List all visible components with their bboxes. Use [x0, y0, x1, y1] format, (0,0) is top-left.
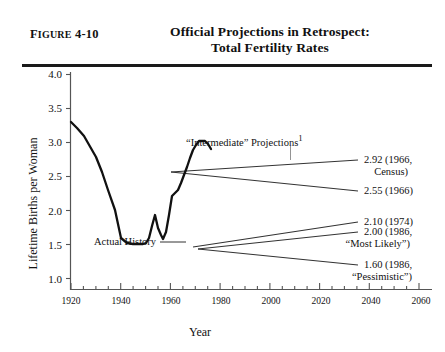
endpoint-label-line2: Census)	[300, 166, 408, 178]
endpoint-label-most-likely-1986: 2.00 (1986, “Most Likely”)	[300, 226, 410, 249]
endpoint-label-line1: 2.92 (1966,	[300, 154, 408, 166]
figure-page: FIGURE 4-10 Official Projections in Retr…	[0, 0, 445, 352]
endpoint-label-line1: 2.00 (1986,	[300, 226, 410, 238]
endpoint-label-census-1966: 2.92 (1966, Census)	[300, 154, 408, 177]
endpoint-label-line2: “Pessimistic”)	[300, 271, 412, 283]
endpoint-label-line1: 1.60 (1986,	[300, 259, 412, 271]
endpoint-label-1966: 2.55 (1966)	[364, 185, 413, 197]
annotation-footnote-marker: 1	[298, 133, 302, 143]
annotation-intermediate-projections: “Intermediate” Projections1	[186, 133, 303, 148]
endpoint-label-pessimistic-1986: 1.60 (1986, “Pessimistic”)	[300, 259, 412, 282]
y-axis-ticks	[66, 75, 71, 279]
annotation-actual-history: Actual History	[94, 236, 156, 247]
annotation-intermediate-text: “Intermediate” Projections	[186, 137, 298, 148]
endpoint-label-line2: “Most Likely”)	[300, 238, 410, 250]
